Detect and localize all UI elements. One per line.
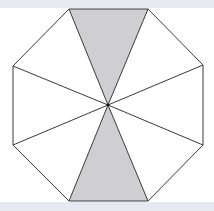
octagon-diagram bbox=[0, 0, 214, 211]
center-point bbox=[107, 104, 110, 107]
shaded-triangle-bottom bbox=[69, 105, 148, 201]
shaded-triangle-top bbox=[69, 9, 148, 105]
spoke-line bbox=[13, 66, 108, 105]
